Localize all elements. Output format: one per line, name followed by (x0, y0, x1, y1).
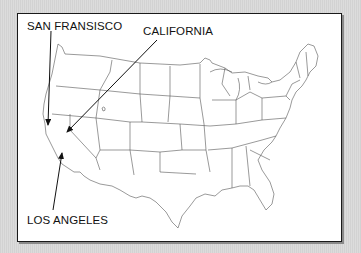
arrow-california (67, 40, 157, 132)
arrow-los-angeles (53, 153, 62, 210)
arrow-san-francisco (48, 31, 51, 125)
label-los-angeles: LOS ANGELES (27, 215, 108, 227)
label-california: CALIFORNIA (143, 26, 213, 38)
label-san-francisco: SAN FRANSISCO (27, 21, 122, 33)
